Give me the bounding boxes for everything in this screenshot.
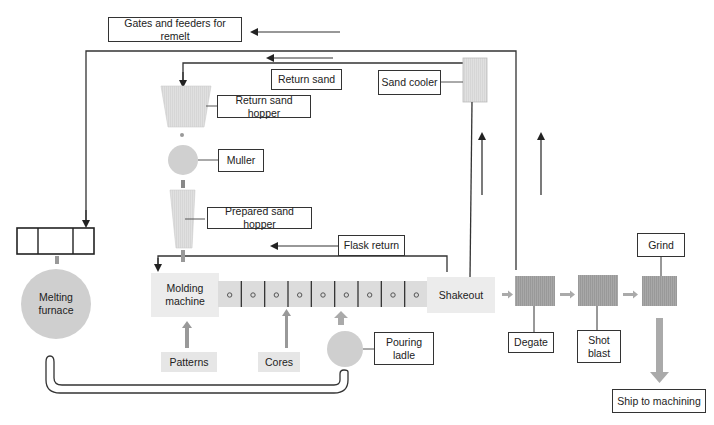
sand-cooler-unit bbox=[463, 58, 487, 102]
degate-label: Degate bbox=[508, 332, 554, 353]
grind-unit bbox=[642, 276, 677, 306]
return-sand-hopper-label: Return sand hopper bbox=[217, 95, 311, 118]
shakeout-label: Shakeout bbox=[427, 277, 495, 313]
shakeout-to-cooler-line bbox=[470, 102, 472, 278]
molding-machine-label: Molding machine bbox=[151, 273, 219, 317]
return-sand-label: Return sand bbox=[271, 69, 342, 90]
pouring-ladle-label: Pouring ladle bbox=[374, 332, 434, 365]
melting-furnace-label: Melting furnace bbox=[21, 284, 91, 324]
shot-blast-label: Shot blast bbox=[577, 330, 621, 363]
prepared-sand-hopper-label: Prepared sand hopper bbox=[207, 207, 312, 229]
ship-arrow bbox=[650, 318, 669, 383]
pouring-ladle-shape bbox=[327, 331, 363, 367]
shot-blast-unit bbox=[578, 275, 618, 306]
flask-return-label: Flask return bbox=[338, 235, 405, 256]
muller-shape bbox=[168, 145, 198, 175]
sand-cooler-label: Sand cooler bbox=[378, 70, 441, 95]
muller-label: Muller bbox=[218, 149, 264, 172]
patterns-label: Patterns bbox=[161, 352, 217, 372]
degate-unit bbox=[515, 276, 555, 306]
ship-to-machining-label: Ship to machining bbox=[612, 389, 706, 413]
furnace-charge-bin bbox=[17, 228, 94, 254]
grind-label: Grind bbox=[637, 233, 685, 257]
mold-conveyor bbox=[218, 281, 428, 307]
gates-feeders-label: Gates and feeders for remelt bbox=[108, 17, 242, 42]
cores-label: Cores bbox=[258, 352, 300, 372]
return-sand-hopper-shape bbox=[161, 86, 211, 127]
